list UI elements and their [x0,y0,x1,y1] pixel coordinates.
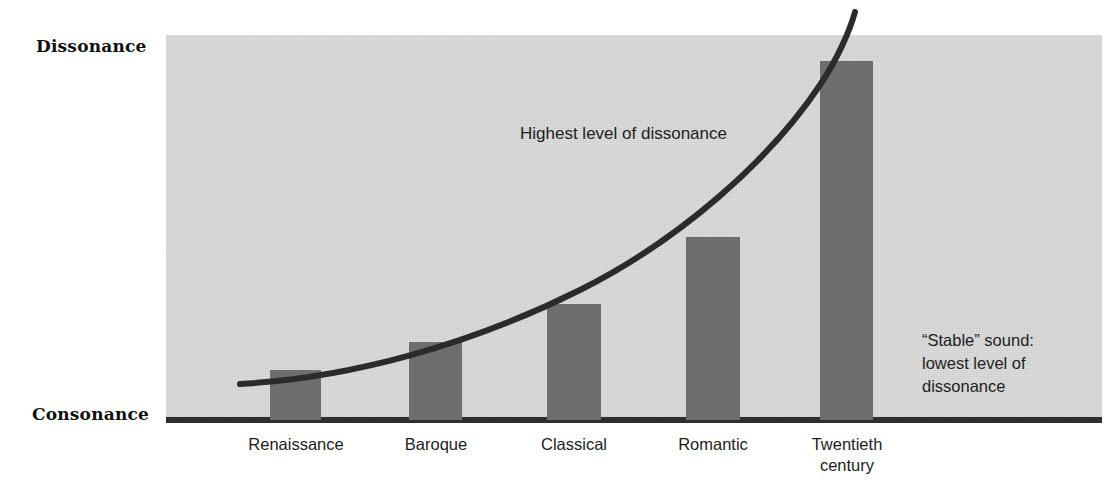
bar-twentieth-century [820,61,873,420]
y-axis-top-label: Dissonance [36,36,147,56]
y-axis-bottom-label: Consonance [32,404,149,424]
bar-renaissance [270,370,321,420]
annotation-highest-dissonance: Highest level of dissonance [520,123,727,145]
annotation-stable-sound: “Stable” sound: lowest level of dissonan… [922,329,1034,398]
bar-classical [547,304,601,420]
x-label-twentieth-century: Twentieth century [786,434,908,476]
bar-baroque [409,342,462,420]
x-label-classical: Classical [513,434,635,455]
x-label-renaissance: Renaissance [235,434,357,455]
bar-romantic [686,237,740,420]
x-label-baroque: Baroque [375,434,497,455]
x-label-romantic: Romantic [652,434,774,455]
dissonance-trend-chart: Dissonance Consonance Renaissance Baroqu… [0,0,1120,499]
